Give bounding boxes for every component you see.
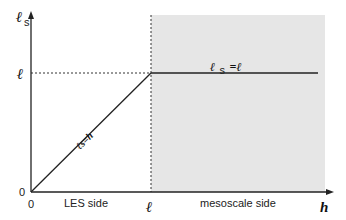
ls-equals-h-label: ℓs=h: [74, 130, 96, 152]
y-tick-l: ℓ: [17, 66, 23, 82]
x-axis-label: h: [320, 199, 328, 215]
mesoscale-side-label: mesoscale side: [200, 197, 276, 209]
x-tick-0: 0: [28, 198, 34, 210]
x-tick-l: ℓ: [146, 199, 152, 215]
y-axis-label-sub: s: [24, 16, 30, 28]
x-axis-arrow-icon: [326, 189, 334, 195]
ls-equals-h-line: [31, 73, 151, 192]
diagram: ℓ s ℓ 0 0 ℓ h ℓs=h ℓ s =ℓ LES side mesos…: [0, 0, 346, 220]
y-axis-label: ℓ: [16, 9, 22, 25]
y-tick-0: 0: [19, 186, 25, 198]
les-side-label: LES side: [64, 197, 108, 209]
mesoscale-shaded-region: [151, 15, 325, 192]
